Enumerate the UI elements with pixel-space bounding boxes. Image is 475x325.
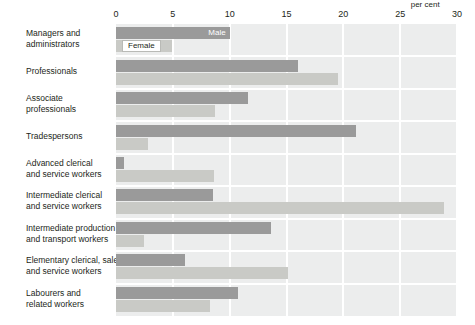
bar-chart: 051015202530per cent Managers andadminis… [0,0,475,325]
category-label-line: related workers [26,299,112,310]
axis-unit-label: per cent [411,0,440,10]
category-label-line: Labourers and [26,288,112,299]
bar-male [116,189,213,201]
bar-male [116,60,298,72]
x-tick-label-15: 15 [281,9,291,19]
x-tick-label-20: 20 [338,9,348,19]
category-label-line: and service workers [26,169,112,180]
category-label-line: Professionals [26,66,112,77]
bar-male [116,287,238,299]
horizontal-gridline [116,120,457,122]
bar-female [116,105,215,117]
bar-female [116,235,144,247]
category-label: Advanced clericaland service workers [26,158,112,180]
legend-label-male: Male [208,28,225,38]
vertical-gridline [342,24,344,316]
bar-male [116,125,356,137]
horizontal-gridline [116,250,457,252]
horizontal-gridline [116,88,457,90]
category-label-line: professionals [26,104,112,115]
category-label-line: Managers and [26,28,112,39]
bar-female [116,202,444,214]
category-label: Intermediate productionand transport wor… [26,223,112,245]
legend-label-female: Female [122,40,161,52]
category-label-line: Advanced clerical [26,158,112,169]
x-tick-label-25: 25 [395,9,405,19]
horizontal-gridline [116,55,457,57]
category-label-line: and service workers [26,266,112,277]
bar-female [116,170,214,182]
category-label: Associateprofessionals [26,93,112,115]
bar-female [116,138,148,150]
bar-male [116,157,124,169]
category-label: Elementary clerical, salesand service wo… [26,255,112,277]
category-label: Labourers andrelated workers [26,288,112,310]
category-label-line: Intermediate clerical [26,190,112,201]
x-tick-label-5: 5 [170,9,175,19]
bar-female [116,300,210,312]
category-label-line: Elementary clerical, sales [26,255,112,266]
x-tick-label-0: 0 [113,9,118,19]
category-label: Managers andadministrators [26,28,112,50]
category-label: Professionals [26,66,112,77]
category-label-line: Intermediate production [26,223,112,234]
category-label-line: and service workers [26,201,112,212]
x-tick-label-30: 30 [452,9,462,19]
category-label: Intermediate clericaland service workers [26,190,112,212]
bar-male [116,254,185,266]
bar-male: Male [116,27,230,39]
horizontal-gridline [116,283,457,285]
x-axis: 051015202530per cent [0,0,475,24]
horizontal-gridline [116,185,457,187]
horizontal-gridline [116,153,457,155]
category-label-line: administrators [26,39,112,50]
bar-female: Female [116,40,172,52]
vertical-gridline [399,24,401,316]
bar-female [116,267,288,279]
bar-male [116,222,271,234]
category-label: Tradespersons [26,131,112,142]
category-label-line: Associate [26,93,112,104]
horizontal-gridline [116,218,457,220]
category-label-line: Tradespersons [26,131,112,142]
category-label-line: and transport workers [26,234,112,245]
bar-female [116,73,338,85]
bar-male [116,92,248,104]
x-tick-label-10: 10 [225,9,235,19]
vertical-gridline [456,24,457,316]
